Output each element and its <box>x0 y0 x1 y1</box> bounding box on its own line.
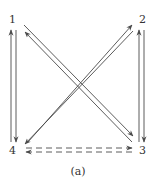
graph-diagram: 1 2 3 4 (a) <box>0 0 156 184</box>
edge-2-to-4 <box>25 31 133 144</box>
graph-canvas <box>0 0 156 184</box>
node-label-3: 3 <box>139 145 146 156</box>
node-label-1: 1 <box>9 14 16 25</box>
node-label-2: 2 <box>139 14 146 25</box>
node-label-4: 4 <box>9 145 16 156</box>
figure-caption: (a) <box>0 166 156 177</box>
